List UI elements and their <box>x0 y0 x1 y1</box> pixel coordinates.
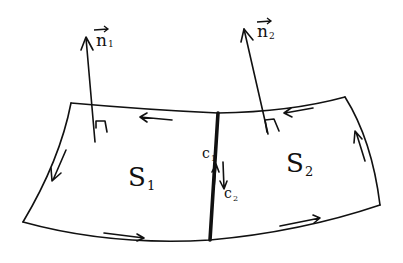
normal-vector-n2 <box>244 29 268 134</box>
svg-text:S: S <box>128 162 146 192</box>
svg-text:2: 2 <box>233 194 238 203</box>
label-s2: S 2 <box>286 148 313 179</box>
right-angle-mark-n1-icon <box>96 121 107 132</box>
arrow-top-s1-icon <box>140 113 172 122</box>
svg-text:1: 1 <box>108 39 114 49</box>
svg-text:c: c <box>224 185 232 201</box>
surface-boundary-bottom <box>23 205 380 241</box>
svg-text:S: S <box>286 148 304 178</box>
svg-text:n: n <box>257 21 268 41</box>
label-n1: n 1 <box>94 26 114 50</box>
arrow-top-s2-icon <box>284 108 313 117</box>
svg-text:2: 2 <box>305 164 313 179</box>
svg-text:c: c <box>202 145 210 161</box>
svg-text:2: 2 <box>269 31 275 41</box>
svg-text:1: 1 <box>147 178 155 193</box>
arrow-left-s1-icon <box>51 150 66 181</box>
diagram-canvas: n 1 n 2 S 1 S 2 c 1 c 2 <box>0 0 403 263</box>
svg-text:n: n <box>96 30 107 50</box>
svg-text:1: 1 <box>211 154 216 163</box>
surface-boundary-top <box>71 97 345 113</box>
shared-boundary-curve <box>210 113 218 240</box>
surface-boundary-left <box>23 103 71 222</box>
right-angle-mark-n2-icon <box>265 119 279 132</box>
label-c1: c 1 <box>202 145 216 163</box>
normal-vector-n1 <box>86 38 95 142</box>
label-n2: n 2 <box>257 18 275 41</box>
label-c2: c 2 <box>224 185 238 203</box>
label-s1: S 1 <box>128 162 155 193</box>
